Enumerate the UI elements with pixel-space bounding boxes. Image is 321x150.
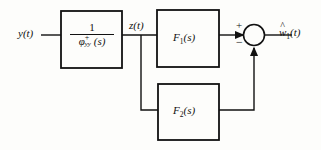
fraction-numerator: 1 bbox=[68, 22, 116, 34]
phi-symbol-group: φ+yy bbox=[79, 36, 85, 47]
fraction-denominator: φ+yy(s) bbox=[68, 35, 116, 47]
label-whitening-transfer-function: 1 φ+yy(s) bbox=[68, 22, 116, 47]
summer-plus-sign: + bbox=[236, 20, 242, 31]
f1-base: F bbox=[173, 31, 180, 43]
block-diagram-figure: y(t) 1 φ+yy(s) z(t) F1(s) F2(s) + − ^w1(… bbox=[0, 0, 321, 150]
summer-minus-sign: − bbox=[236, 36, 243, 48]
hat-accent: ^ bbox=[279, 21, 286, 31]
w-hat-group: ^w bbox=[279, 27, 286, 38]
f1-argument: (s) bbox=[183, 31, 195, 43]
phi-subscript-yy: yy bbox=[85, 41, 91, 48]
w-argument: (t) bbox=[290, 26, 300, 38]
label-block-f1: F1(s) bbox=[173, 32, 195, 46]
phi-argument: (s) bbox=[94, 35, 106, 47]
f2-base: F bbox=[173, 104, 180, 116]
label-input-signal: y(t) bbox=[18, 28, 33, 39]
label-block-f2: F2(s) bbox=[173, 105, 195, 119]
f2-argument: (s) bbox=[183, 104, 195, 116]
wire-f2-to-summer bbox=[219, 48, 254, 110]
label-output-signal: ^w1(t) bbox=[279, 27, 300, 41]
wire-branch-to-f2 bbox=[141, 35, 158, 110]
summing-junction bbox=[244, 25, 265, 46]
label-intermediate-signal: z(t) bbox=[129, 20, 144, 31]
diagram-canvas bbox=[0, 0, 321, 150]
